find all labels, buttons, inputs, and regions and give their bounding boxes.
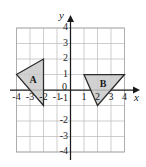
y-tick-4: 4	[63, 21, 68, 32]
y-axis-label: y	[58, 9, 64, 21]
y-tick-2: 2	[63, 52, 68, 63]
triangle-b-label: B	[100, 78, 107, 89]
x-axis-label: x	[133, 91, 139, 103]
y-tick--3: -3	[60, 130, 68, 141]
x-tick-3: 3	[109, 91, 114, 102]
x-tick--3: -3	[26, 91, 34, 102]
x-tick-4: 4	[122, 91, 127, 102]
y-tick--2: -2	[60, 114, 68, 125]
origin-label: 0	[62, 81, 67, 92]
coordinate-plane-svg: A B -4 -3 -2 -1 1 2 3 4 4 3 2 1 -1 -2 -3…	[0, 0, 146, 167]
y-tick--1: -1	[60, 92, 68, 103]
x-tick--4: -4	[12, 91, 20, 102]
y-tick--4: -4	[60, 145, 68, 156]
x-tick-2: 2	[95, 91, 100, 102]
y-tick-1: 1	[63, 68, 68, 79]
y-tick-3: 3	[63, 37, 68, 48]
triangle-a-label: A	[29, 74, 37, 85]
coordinate-grid-figure: A B -4 -3 -2 -1 1 2 3 4 4 3 2 1 -1 -2 -3…	[0, 0, 146, 167]
x-tick--2: -2	[39, 91, 47, 102]
x-tick-1: 1	[82, 91, 87, 102]
